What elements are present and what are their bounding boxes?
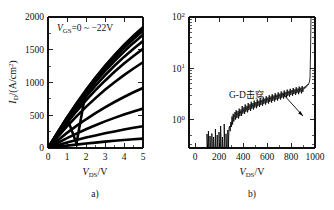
panel-a-curves: [48, 27, 143, 148]
x-tick-label: 2: [84, 152, 89, 162]
panel-b-y-ticks: [189, 17, 315, 144]
x-tick-label: 5: [141, 152, 146, 162]
figure-container: 0 500 1000 1500 2000 0 1 2 3 4 5 VDS/V I…: [0, 0, 334, 210]
leakage-curve: [207, 17, 311, 148]
y-tick-label: 1000: [25, 78, 44, 88]
x-tick-label: 400: [236, 152, 251, 162]
x-axis-title-b: VDS/V: [240, 166, 266, 178]
vgs-annotation: VGS=0 ~ −22V: [57, 23, 113, 34]
panel-a-y-tick-labels: 0 500 1000 1500 2000: [25, 12, 44, 153]
chart-panel-b: 102 101 100 0 200 400 600 800 1000 VDS/V…: [167, 0, 334, 210]
panel-b-curve: [207, 17, 311, 148]
x-axis-title-a: VDS/V: [83, 166, 109, 178]
x-tick-label: 1: [65, 152, 70, 162]
chart-panel-a: 0 500 1000 1500 2000 0 1 2 3 4 5 VDS/V I…: [0, 0, 167, 210]
panel-b-svg: 102 101 100 0 200 400 600 800 1000 VDS/V…: [167, 0, 334, 210]
x-tick-label: 3: [103, 152, 108, 162]
y-axis-title-a: ID/(A/cm2): [7, 60, 19, 104]
x-tick-label: 600: [260, 152, 275, 162]
panel-b-caption: b): [248, 189, 256, 200]
panel-b-axes: [189, 17, 315, 148]
panel-b-y-tick-labels: 102 101 100: [172, 11, 186, 125]
x-tick-label: 800: [284, 152, 299, 162]
y-tick-label: 500: [30, 111, 45, 121]
y-tick-label: 100: [172, 114, 186, 126]
panel-b-x-tick-labels: 0 200 400 600 800 1000: [193, 152, 325, 162]
panel-a-svg: 0 500 1000 1500 2000 0 1 2 3 4 5 VDS/V I…: [0, 0, 167, 210]
y-tick-label: 101: [172, 62, 185, 74]
y-tick-label: 2000: [25, 12, 44, 22]
y-tick-label: 1500: [25, 45, 44, 55]
panel-b-x-ticks: [195, 17, 315, 148]
x-tick-label: 0: [46, 152, 51, 162]
panel-a-x-tick-labels: 0 1 2 3 4 5: [46, 152, 146, 162]
x-tick-label: 4: [122, 152, 127, 162]
breakdown-annotation: G-D击穿: [229, 89, 264, 100]
panel-a-caption: a): [91, 189, 98, 200]
x-tick-label: 0: [193, 152, 198, 162]
x-tick-label: 200: [212, 152, 227, 162]
y-tick-label: 0: [39, 143, 44, 153]
y-tick-label: 102: [172, 11, 186, 23]
x-tick-label: 1000: [306, 152, 325, 162]
